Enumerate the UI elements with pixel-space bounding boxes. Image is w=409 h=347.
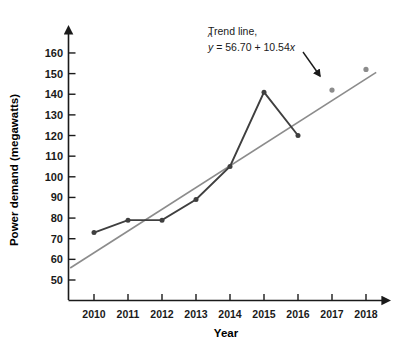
y-axis-title: Power demand (megawatts) bbox=[8, 94, 20, 246]
chart-container: 5060708090100110120130140150160 20102011… bbox=[0, 0, 409, 347]
axis-titles: Year Power demand (megawatts) bbox=[0, 0, 409, 347]
x-axis-title: Year bbox=[214, 327, 239, 339]
